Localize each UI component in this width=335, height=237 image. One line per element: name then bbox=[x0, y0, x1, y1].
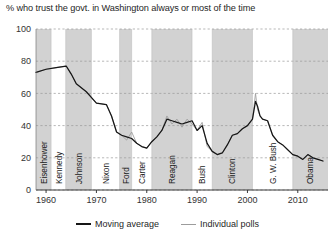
president-label-johnson: Johnson bbox=[75, 153, 84, 184]
president-label-carter: Carter bbox=[138, 161, 147, 184]
president-label-g-w-bush: G. W. Bush bbox=[269, 142, 278, 184]
y-tick-100: 100 bbox=[16, 24, 31, 34]
x-axis-labels: 196019701980199020002010 bbox=[36, 190, 308, 205]
president-label-clinton: Clinton bbox=[228, 158, 237, 184]
president-label-reagan: Reagan bbox=[168, 155, 177, 184]
legend-label-individual-polls: Individual polls bbox=[200, 219, 259, 229]
y-tick-60: 60 bbox=[21, 89, 31, 99]
trust-in-government-chart: % who trust the govt. in Washington alwa… bbox=[0, 0, 335, 237]
y-tick-40: 40 bbox=[21, 121, 31, 131]
legend-swatch-moving-average bbox=[76, 223, 91, 225]
y-tick-0: 0 bbox=[26, 185, 31, 195]
president-label-bush: Bush bbox=[198, 165, 207, 184]
president-band-ford bbox=[120, 29, 132, 190]
president-label-ford: Ford bbox=[122, 167, 131, 184]
legend-swatch-individual-polls bbox=[181, 224, 196, 225]
president-label-kennedy: Kennedy bbox=[55, 151, 64, 184]
y-tick-80: 80 bbox=[21, 56, 31, 66]
legend-label-moving-average: Moving average bbox=[95, 219, 159, 229]
y-axis-labels: 020406080100 bbox=[16, 24, 31, 195]
chart-legend: Moving average Individual polls bbox=[0, 214, 335, 234]
legend-item-individual-polls: Individual polls bbox=[181, 219, 259, 229]
president-label-nixon: Nixon bbox=[102, 163, 111, 184]
x-tick-1970: 1970 bbox=[86, 195, 106, 205]
x-tick-1980: 1980 bbox=[137, 195, 157, 205]
legend-item-moving-average: Moving average bbox=[76, 219, 159, 229]
president-label-eisenhower: Eisenhower bbox=[40, 141, 49, 184]
president-label-obama: Obama bbox=[306, 157, 315, 184]
y-tick-20: 20 bbox=[21, 153, 31, 163]
x-tick-2000: 2000 bbox=[237, 195, 257, 205]
x-tick-2010: 2010 bbox=[288, 195, 308, 205]
x-tick-1960: 1960 bbox=[36, 195, 56, 205]
x-tick-1990: 1990 bbox=[187, 195, 207, 205]
plot-area: 020406080100EisenhowerKennedyJohnsonNixo… bbox=[0, 0, 335, 237]
